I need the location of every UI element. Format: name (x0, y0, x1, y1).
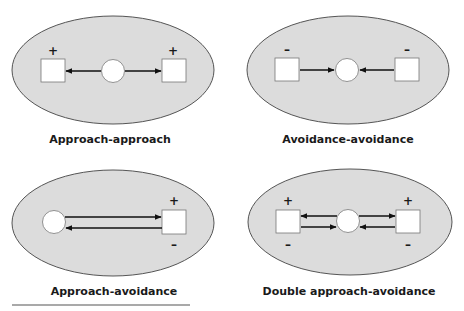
goal-box-right (162, 210, 186, 234)
person-circle (336, 59, 359, 82)
sign-left-top: – (284, 43, 290, 57)
panel-approach-avoidance: + – Approach-avoidance (12, 170, 214, 298)
panel-caption: Avoidance-avoidance (282, 133, 413, 146)
sign-right-top: – (404, 43, 410, 57)
sign-left-bottom: – (285, 238, 291, 252)
sign-left-top: + (48, 44, 58, 58)
sign-right-top: + (169, 194, 179, 208)
person-circle (43, 211, 66, 234)
goal-box-right (396, 210, 420, 233)
panel-caption: Double approach-avoidance (263, 285, 436, 298)
sign-left-top: + (283, 194, 293, 208)
panel-approach-approach: + + Approach-approach (12, 16, 214, 146)
sign-right-bottom: – (405, 238, 411, 252)
panel-caption: Approach-approach (49, 133, 171, 146)
panel-double-approach-avoidance: + – + – Double approach-avoidance (248, 169, 452, 298)
goal-box-left (275, 58, 299, 81)
goal-box-right (162, 59, 186, 82)
goal-box-right (395, 58, 419, 81)
conflict-diagram: + + Approach-approach – – Avoidance-avoi… (0, 0, 464, 311)
sign-right-bottom: – (171, 238, 177, 252)
person-circle (102, 60, 125, 83)
panel-avoidance-avoidance: – – Avoidance-avoidance (247, 16, 449, 146)
goal-box-left (276, 210, 300, 233)
sign-right-top: + (403, 194, 413, 208)
sign-right-top: + (168, 44, 178, 58)
goal-box-left (41, 59, 65, 82)
panel-caption: Approach-avoidance (51, 285, 178, 298)
person-circle (337, 210, 360, 233)
